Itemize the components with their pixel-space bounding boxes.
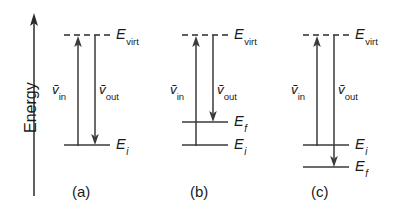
panel-c-scattered-arrow-label: ṽout: [338, 83, 358, 99]
panel-c-incident-arrow-label-sub: in: [298, 91, 305, 102]
panel-a-scattered-arrow-label-base: ṽ: [99, 82, 106, 97]
panel-a-scattered-arrow-label-sub: out: [106, 91, 119, 102]
panel-c-initial-level-label-base: E: [355, 136, 365, 152]
panel-a-incident-arrow-label: ṽin: [52, 83, 66, 99]
panel-c-final-level-label-sub: f: [365, 168, 368, 179]
raman-energy-level-diagram: Energy Evirt Ei ṽin ṽout (a) Evirt Ef Ei…: [0, 0, 395, 213]
panel-b-final-level-label: Ef: [234, 114, 246, 132]
panel-c-final-level-label: Ef: [355, 159, 367, 177]
panel-a-virtual-level-label-base: E: [116, 26, 126, 42]
panel-a-virtual-level-label-sub: virt: [126, 36, 139, 47]
panel-b-final-level-label-sub: f: [244, 123, 247, 134]
panel-a-scattered-arrow-label: ṽout: [99, 83, 119, 99]
panel-c-scattered-arrow-label-sub: out: [345, 91, 358, 102]
panel-c-virtual-level-label-sub: virt: [365, 36, 378, 47]
panel-b-final-level-label-base: E: [234, 113, 244, 129]
panel-c-initial-level-label: Ei: [355, 137, 367, 155]
panel-c-graphics: [303, 35, 349, 167]
panel-b-virtual-level-label: Evirt: [234, 27, 256, 44]
panel-b-scattered-arrow-label-sub: out: [224, 91, 237, 102]
panel-c-virtual-level-label-base: E: [355, 26, 365, 42]
panel-b-scattered-arrow-label: ṽout: [217, 83, 237, 99]
panel-a-caption: (a): [72, 184, 90, 199]
panel-a-initial-level-label-base: E: [116, 136, 126, 152]
panel-b-incident-arrow-label: ṽin: [170, 83, 184, 99]
panel-a-incident-arrow-label-base: ṽ: [52, 82, 59, 97]
panel-b-incident-arrow-label-sub: in: [177, 91, 184, 102]
panel-b-initial-level-label: Ei: [234, 137, 246, 155]
energy-axis-label: Energy: [22, 82, 40, 133]
panel-a-virtual-level-label: Evirt: [116, 27, 138, 44]
panel-c-incident-arrow-label-base: ṽ: [291, 82, 298, 97]
panel-c-virtual-level-label: Evirt: [355, 27, 377, 44]
diagram-canvas: [0, 0, 395, 213]
panel-a-incident-arrow-label-sub: in: [59, 91, 66, 102]
panel-c-final-level-label-base: E: [355, 158, 365, 174]
panel-a-initial-level-label: Ei: [116, 137, 128, 155]
panel-b-virtual-level-label-base: E: [234, 26, 244, 42]
panel-c-scattered-arrow-label-base: ṽ: [338, 82, 345, 97]
panel-b-caption: (b): [190, 184, 208, 199]
panel-b-scattered-arrow-label-base: ṽ: [217, 82, 224, 97]
panel-c-incident-arrow-label: ṽin: [291, 83, 305, 99]
panel-c-caption: (c): [311, 184, 329, 199]
panel-b-initial-level-label-base: E: [234, 136, 244, 152]
panel-b-virtual-level-label-sub: virt: [244, 36, 257, 47]
panel-b-incident-arrow-label-base: ṽ: [170, 82, 177, 97]
